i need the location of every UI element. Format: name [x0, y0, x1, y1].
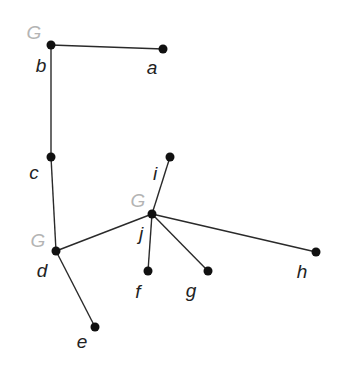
node-label-j: j	[139, 224, 143, 243]
node-b	[47, 41, 56, 50]
edge-j-h	[152, 214, 316, 252]
marker-g-b: G	[27, 23, 42, 42]
node-e	[91, 323, 100, 332]
edge-d-e	[56, 251, 95, 327]
edge-c-d	[51, 157, 56, 251]
node-i	[166, 153, 175, 162]
node-c	[47, 153, 56, 162]
node-label-h: h	[297, 262, 308, 281]
node-h	[312, 248, 321, 257]
node-label-c: c	[29, 163, 39, 182]
node-label-d: d	[37, 261, 48, 280]
edge-j-g	[152, 214, 208, 271]
node-label-b: b	[36, 56, 47, 75]
edge-d-j	[56, 214, 152, 251]
node-g	[204, 267, 213, 276]
node-label-i: i	[153, 164, 157, 183]
node-label-f: f	[135, 282, 140, 301]
nodes-group	[47, 41, 321, 332]
edge-j-f	[148, 214, 152, 271]
node-label-e: e	[77, 332, 88, 351]
diagram-canvas	[0, 0, 341, 365]
marker-g-d: G	[31, 231, 46, 250]
edge-b-a	[51, 45, 163, 49]
node-f	[144, 267, 153, 276]
node-a	[159, 45, 168, 54]
node-d	[52, 247, 61, 256]
marker-g-j: G	[131, 191, 146, 210]
edges-group	[51, 45, 316, 327]
node-label-a: a	[147, 58, 158, 77]
node-j	[148, 210, 157, 219]
node-label-g: g	[186, 281, 197, 300]
